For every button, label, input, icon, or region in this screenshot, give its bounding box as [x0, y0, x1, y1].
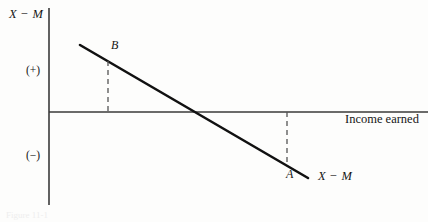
point-b-label: B: [111, 39, 118, 51]
y-axis-title: X − M: [9, 8, 43, 21]
positive-region-label: (+): [26, 65, 40, 77]
figure-caption: Figure 11-1: [6, 211, 48, 220]
net-exports-figure: X − M (+) (−) B A X − M Income earned Fi…: [0, 0, 428, 222]
negative-region-label: (−): [26, 150, 40, 162]
net-exports-curve-label: X − M: [318, 170, 352, 183]
point-a-label: A: [286, 168, 293, 180]
plot-area: [0, 0, 428, 222]
x-axis-title: Income earned: [345, 113, 419, 126]
